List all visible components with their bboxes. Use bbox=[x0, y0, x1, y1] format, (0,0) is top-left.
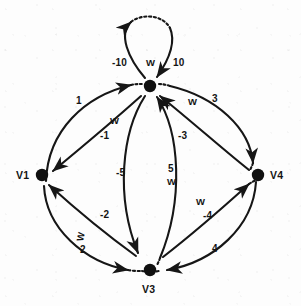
edge-v3-to-v1 bbox=[49, 185, 136, 256]
edge-center-to-v3 bbox=[124, 96, 145, 253]
edge-label-w-lower-right: W bbox=[196, 196, 205, 207]
vertex-center-dot[interactable] bbox=[144, 80, 156, 92]
edge-label-4: 4 bbox=[212, 243, 218, 254]
edge-v1-to-v3-dot bbox=[128, 270, 142, 271]
edge-label-neg4: -4 bbox=[203, 210, 212, 221]
edge-label-loop-neg10: -10 bbox=[112, 57, 127, 68]
edge-label-3: 3 bbox=[212, 93, 218, 104]
vertex-v1-dot[interactable] bbox=[36, 169, 48, 181]
vertex-v3-dot[interactable] bbox=[144, 264, 156, 276]
edge-label-2: 2 bbox=[80, 244, 86, 255]
edge-v1-to-center-dot bbox=[131, 84, 142, 85]
edge-label-w-upper-right: W bbox=[188, 96, 197, 107]
edge-v3-to-center-dot bbox=[157, 258, 160, 265]
edge-self-loop-left bbox=[125, 22, 145, 78]
vertex-label-v4: V4 bbox=[270, 169, 283, 181]
figure-canvas: CENTRE ===== --> V4 ===== --> V3 (two ne… bbox=[0, 0, 301, 306]
edge-center-to-v4-dot bbox=[159, 84, 170, 86]
edge-label-neg3: -3 bbox=[178, 130, 187, 141]
vertex-label-v3: V3 bbox=[142, 283, 155, 295]
edge-label-w-lower-left: W bbox=[74, 231, 87, 242]
edge-v1-to-v3 bbox=[44, 186, 128, 270]
edge-label-neg2: -2 bbox=[100, 209, 109, 220]
edge-self-loop-right bbox=[157, 28, 172, 77]
graph-drawing: CENTRE ===== --> V4 ===== --> V3 (two ne… bbox=[0, 0, 301, 306]
vertex-v4-dot[interactable] bbox=[252, 169, 264, 181]
edge-self-loop-crest bbox=[131, 16, 170, 28]
edge-center-to-v4-tail-dot bbox=[250, 163, 253, 170]
edge-label-neg1: -1 bbox=[100, 130, 109, 141]
vertex-label-v1: V1 bbox=[16, 169, 29, 181]
edge-v4-to-center bbox=[160, 96, 249, 170]
edge-label-neg5: -5 bbox=[116, 167, 125, 178]
edge-label-5: 5 bbox=[168, 163, 174, 174]
edge-label-1: 1 bbox=[76, 95, 82, 106]
edge-label-loop-w: W bbox=[146, 57, 155, 68]
edge-center-to-v1 bbox=[53, 96, 141, 171]
edge-label-w-center: W bbox=[167, 176, 176, 187]
edge-label-loop-pos10: 10 bbox=[173, 57, 185, 68]
edge-v4-to-v3 bbox=[167, 182, 256, 270]
edge-label-w-upper-left: W bbox=[110, 115, 119, 126]
